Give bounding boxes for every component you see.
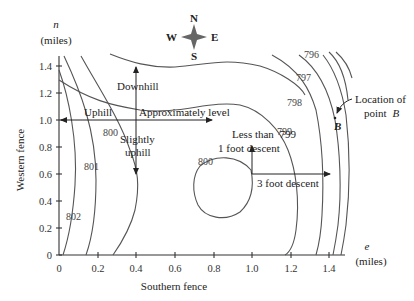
svg-text:N: N (190, 12, 198, 24)
less-than-label: Less than 799 (232, 128, 297, 140)
svg-text:1.4: 1.4 (39, 61, 53, 72)
one-foot-label: 1 foot descent (218, 142, 280, 154)
y-axis-unit: (miles) (40, 34, 71, 47)
svg-text:0.2: 0.2 (91, 263, 104, 274)
x-axis-title: Southern fence (141, 280, 207, 292)
svg-text:0.6: 0.6 (39, 169, 52, 180)
compass-icon: N S E W (166, 12, 218, 62)
svg-text:S: S (191, 50, 197, 62)
svg-text:W: W (166, 31, 177, 43)
label-797: 797 (296, 72, 311, 83)
approx-level-label: Approximately level (139, 106, 230, 118)
slightly-label: Slightly (120, 133, 155, 145)
svg-text:1.2: 1.2 (39, 88, 52, 99)
y-axis-title: Western fence (14, 129, 26, 191)
svg-text:1.0: 1.0 (245, 263, 258, 274)
label-801: 801 (84, 161, 99, 172)
x-axis-var: e (365, 240, 370, 252)
downhill-label: Downhill (117, 80, 159, 92)
y-axis-var: n (53, 18, 59, 30)
point-b-dot (334, 117, 337, 120)
point-b-label: B (333, 120, 341, 132)
label-800-left: 800 (103, 127, 118, 138)
point-label: point B (364, 107, 399, 119)
contour-802 (59, 70, 76, 255)
svg-text:0.4: 0.4 (129, 263, 143, 274)
svg-text:0.8: 0.8 (207, 263, 220, 274)
svg-text:1.0: 1.0 (39, 115, 52, 126)
svg-text:0.8: 0.8 (39, 142, 52, 153)
label-796: 796 (304, 49, 319, 60)
annotations: Uphill Downhill Approximately level Slig… (84, 80, 406, 189)
svg-text:0: 0 (47, 250, 52, 261)
x-tick-labels: 0 0.2 0.4 0.6 0.8 1.0 1.2 1.4 (56, 263, 336, 274)
y-tick-labels: 0 0.2 0.4 0.6 0.8 1.0 1.2 1.4 (39, 61, 53, 261)
svg-text:0.6: 0.6 (168, 263, 181, 274)
contour-map: 0 0.2 0.4 0.6 0.8 1.0 1.2 1.4 0 0.2 0.4 … (0, 0, 414, 301)
label-800-loop: 800 (198, 156, 213, 167)
svg-text:0: 0 (56, 263, 61, 274)
svg-text:0.4: 0.4 (39, 196, 53, 207)
svg-text:E: E (211, 31, 218, 43)
label-802: 802 (66, 211, 81, 222)
contour-796 (323, 55, 349, 255)
label-798: 798 (287, 97, 302, 108)
location-of-label: Location of (355, 93, 406, 105)
uphill-label: Uphill (84, 106, 112, 118)
x-axis-unit: (miles) (355, 255, 386, 268)
uphill2-label: uphill (125, 146, 151, 158)
svg-text:1.2: 1.2 (284, 263, 297, 274)
svg-text:0.2: 0.2 (39, 223, 52, 234)
svg-text:1.4: 1.4 (322, 263, 336, 274)
contour-798 (272, 55, 323, 255)
three-foot-label: 3 foot descent (257, 177, 319, 189)
contour-outer-1 (329, 52, 348, 100)
